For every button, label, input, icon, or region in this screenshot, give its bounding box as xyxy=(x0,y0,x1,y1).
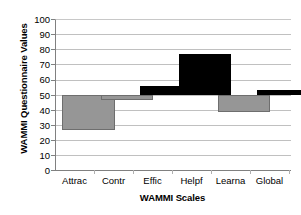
x-tick-label-helpf: Helpf xyxy=(172,175,211,186)
plot-area xyxy=(55,19,291,171)
bar-helpf xyxy=(179,54,231,95)
y-tick-label-80: 80 xyxy=(20,45,50,55)
y-tick-label-10: 10 xyxy=(20,151,50,161)
bar-global xyxy=(257,90,301,95)
y-tick-label-40: 40 xyxy=(20,106,50,116)
x-tick-label-attrac: Attrac xyxy=(55,175,94,186)
x-tick-mark-4 xyxy=(211,170,212,174)
x-tick-mark-3 xyxy=(172,170,173,174)
y-tick-label-20: 20 xyxy=(20,136,50,146)
bar-learna xyxy=(218,95,270,112)
y-tick-label-60: 60 xyxy=(20,75,50,85)
gridline-60 xyxy=(56,80,291,81)
bar-chart: WAMMI Questionnaire Values WAMMI Scales … xyxy=(0,0,301,215)
bar-attrac xyxy=(62,95,115,130)
x-tick-label-global: Global xyxy=(250,175,289,186)
gridline-80 xyxy=(56,49,291,50)
x-tick-label-learna: Learna xyxy=(211,175,250,186)
gridline-90 xyxy=(56,34,291,35)
x-tick-mark-2 xyxy=(133,170,134,174)
y-tick-label-100: 100 xyxy=(20,15,50,25)
gridline-20 xyxy=(56,140,291,141)
x-tick-label-effic: Effic xyxy=(133,175,172,186)
gridline-10 xyxy=(56,155,291,156)
y-tick-label-0: 0 xyxy=(20,166,50,176)
y-tick-label-70: 70 xyxy=(20,60,50,70)
x-tick-mark-6 xyxy=(289,170,290,174)
bar-contr xyxy=(101,95,153,100)
gridline-70 xyxy=(56,64,291,65)
y-tick-label-50: 50 xyxy=(20,91,50,101)
x-tick-label-contr: Contr xyxy=(94,175,133,186)
x-tick-mark-1 xyxy=(94,170,95,174)
y-tick-label-30: 30 xyxy=(20,121,50,131)
x-tick-mark-5 xyxy=(250,170,251,174)
y-tick-label-90: 90 xyxy=(20,30,50,40)
x-axis-title: WAMMI Scales xyxy=(55,192,290,203)
gridline-0 xyxy=(56,170,291,171)
